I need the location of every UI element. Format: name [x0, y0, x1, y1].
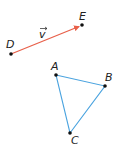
label-d: D [6, 38, 14, 51]
label-c: C [71, 134, 79, 147]
point-b [103, 84, 107, 88]
geometry-diagram: v D E A B C [0, 0, 120, 149]
triangle-abc [56, 75, 105, 133]
point-e [80, 23, 84, 27]
label-b: B [105, 71, 113, 84]
point-a [54, 73, 58, 77]
label-e: E [79, 10, 86, 23]
svg-text:v: v [39, 28, 46, 41]
vector-v-label: v [39, 27, 47, 41]
point-d [9, 52, 13, 56]
label-a: A [50, 60, 59, 73]
